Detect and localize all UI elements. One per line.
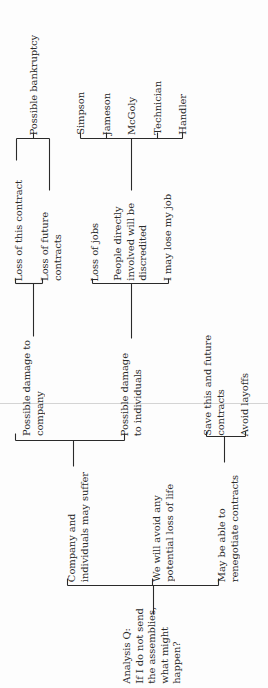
node-mcgoly: McGoly [126,97,139,135]
node-text-line: happen? [171,607,184,684]
node-damage-to-individuals: Possible damageto individuals [119,353,144,436]
node-text-line: Possible damage to [21,340,34,436]
node-text-line: the assemblies, [146,607,159,684]
node-text-line: contracts [215,335,228,436]
node-technician: Technician [152,81,165,135]
node-text-line: Possible bankruptcy [28,35,41,135]
node-text-line: individuals may suffer [79,472,92,582]
node-text-line: to individuals [132,353,145,436]
node-text-line: discredited [137,203,150,281]
node-text-line: Loss of this contract [13,180,26,281]
node-possible-bankruptcy: Possible bankruptcy [28,35,41,135]
node-people-discredited: People directlyinvolved will bediscredit… [112,203,150,281]
node-text-line: We will avoid any [151,484,164,582]
node-text-line: Technician [152,81,165,135]
node-text-line: what might [159,607,172,684]
node-lose-my-job: I may lose my job [162,194,175,281]
node-text-line: People directly [112,203,125,281]
node-text-line: renegotiate contracts [229,475,242,582]
node-text-line: I may lose my job [162,194,175,281]
root-question: Analysis Q:If I do not sendthe assemblie… [121,607,184,684]
node-text-line: May be able to [216,475,229,582]
node-loss-of-jobs: Loss of jobs [89,223,102,281]
node-text-line: Handler [177,94,190,135]
node-text-line: Simpson [75,92,88,135]
node-company-and-individuals: Company andindividuals may suffer [66,472,91,582]
node-text-line: contracts [52,212,65,281]
node-loss-future-contracts: Loss of futurecontracts [39,212,64,281]
node-text-line: Loss of future [39,212,52,281]
node-text-line: Analysis Q: [121,607,134,684]
node-save-contracts: Save this and futurecontracts [202,335,227,436]
node-handler: Handler [177,94,190,135]
node-loss-this-contract: Loss of this contract [13,180,26,281]
node-text-line: Jameson [101,93,114,135]
node-text-line: If I do not send [134,607,147,684]
node-text-line: company [34,340,47,436]
node-text-line: involved will be [125,203,138,281]
node-avoid-loss-of-life: We will avoid anypotential loss of life [151,484,176,582]
node-damage-to-company: Possible damage tocompany [21,340,46,436]
node-text-line: Avoid layoffs [239,373,252,436]
node-avoid-layoffs: Avoid layoffs [239,373,252,436]
node-text-line: Company and [66,472,79,582]
node-jameson: Jameson [101,93,114,135]
node-text-line: McGoly [126,97,139,135]
tree-diagram: Analysis Q:If I do not sendthe assemblie… [0,0,268,688]
node-text-line: potential loss of life [164,484,177,582]
node-text-line: Save this and future [202,335,215,436]
node-renegotiate-contracts: May be able torenegotiate contracts [216,475,241,582]
node-simpson: Simpson [75,92,88,135]
node-text-line: Possible damage [119,353,132,436]
node-text-line: Loss of jobs [89,223,102,281]
